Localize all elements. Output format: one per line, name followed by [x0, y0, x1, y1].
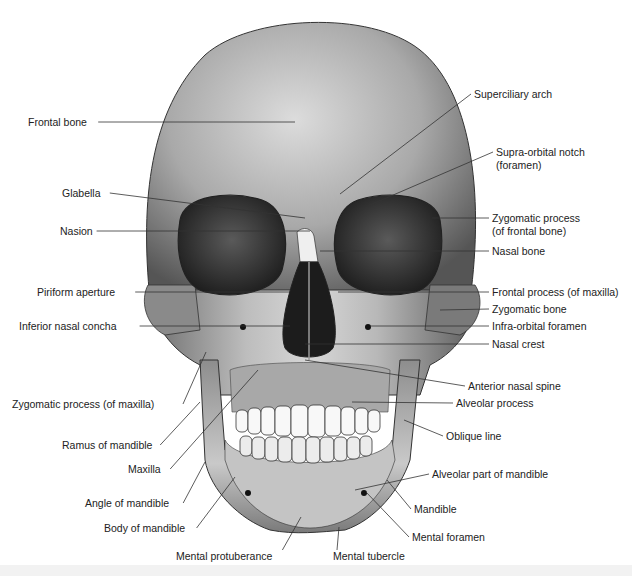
label-mandible: Mandible [414, 503, 457, 515]
lower-teeth [240, 436, 372, 463]
label-zygomatic-bone: Zygomatic bone [492, 303, 567, 315]
zygomatic-left [144, 285, 200, 335]
label-piriform-aperture: Piriform aperture [37, 286, 115, 298]
left-infra-orbital-foramen [240, 324, 246, 330]
label-body-of-mandible: Body of mandible [104, 522, 185, 534]
right-orbit [334, 195, 441, 295]
leader-ramus-of-mandible [160, 402, 200, 445]
label-zygomatic-process-maxilla: Zygomatic process (of maxilla) [12, 398, 154, 410]
skull-anterior-diagram: Frontal boneGlabellaNasionPiriform apert… [0, 0, 632, 576]
label-oblique-line: Oblique line [446, 430, 501, 442]
label-frontal-bone: Frontal bone [28, 116, 87, 128]
label-supra-orbital-notch-line2: (foramen) [496, 159, 542, 171]
label-alveolar-part-of-mandible: Alveolar part of mandible [432, 468, 548, 480]
label-mental-protuberance: Mental protuberance [176, 550, 272, 562]
bottom-border [0, 565, 632, 576]
label-mental-foramen: Mental foramen [412, 531, 485, 543]
label-inferior-nasal-concha: Inferior nasal concha [19, 320, 116, 332]
label-nasal-bone: Nasal bone [492, 245, 545, 257]
label-maxilla: Maxilla [128, 463, 161, 475]
left-orbit [178, 195, 285, 295]
label-alveolar-process: Alveolar process [456, 397, 534, 409]
leader-angle-of-mandible [183, 462, 205, 503]
label-anterior-nasal-spine: Anterior nasal spine [468, 380, 561, 392]
upper-teeth [236, 405, 380, 437]
label-nasion: Nasion [60, 225, 93, 237]
right-mental-foramen [361, 490, 367, 496]
label-ramus-of-mandible: Ramus of mandible [62, 439, 152, 451]
left-mental-foramen [245, 490, 251, 496]
right-infra-orbital-foramen [365, 324, 371, 330]
label-supra-orbital-notch: Supra-orbital notch [496, 146, 585, 158]
label-angle-of-mandible: Angle of mandible [85, 497, 169, 509]
label-superciliary-arch: Superciliary arch [474, 88, 552, 100]
label-nasal-crest: Nasal crest [492, 338, 545, 350]
label-zygomatic-process-frontal: Zygomatic process [492, 212, 580, 224]
label-glabella: Glabella [62, 187, 101, 199]
label-zygomatic-process-frontal-line2: (of frontal bone) [492, 225, 566, 237]
label-frontal-process-maxilla: Frontal process (of maxilla) [492, 286, 619, 298]
label-infra-orbital-foramen: Infra-orbital foramen [492, 320, 587, 332]
label-mental-tubercle: Mental tubercle [333, 550, 405, 562]
